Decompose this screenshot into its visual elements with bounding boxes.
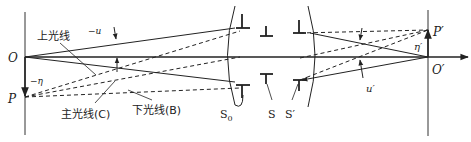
u-angle-arrow — [114, 27, 116, 39]
diagram-canvas: O P −η −u 上光线 主光线(C) 下光线(B) S0 S S′ P′ η… — [0, 0, 471, 142]
lower-ray-leader — [128, 90, 152, 100]
marginal-ray-lower-image — [302, 57, 428, 80]
s-prime-leader — [292, 84, 298, 100]
chief-ray-leader — [95, 81, 115, 103]
marginal-ray-lower-object — [25, 57, 235, 82]
label-S: S — [268, 108, 276, 121]
label-eta-prime: η′ — [414, 41, 423, 52]
label-O: O — [8, 51, 18, 65]
label-P: P — [7, 92, 17, 106]
label-P-prime: P′ — [432, 25, 444, 39]
s-leader — [267, 84, 272, 100]
exit-pupil-stop-s-prime — [293, 20, 306, 91]
label-chief-ray: 主光线(C) — [61, 107, 110, 121]
label-u-prime: u′ — [366, 83, 375, 94]
aperture-stop-s0 — [236, 14, 250, 98]
front-lens-arc — [228, 6, 244, 106]
chief-ray-image — [300, 30, 428, 58]
label-S-prime: S′ — [285, 108, 296, 121]
chief-ray-object — [25, 57, 240, 97]
label-S0-base: S — [220, 108, 228, 121]
label-upper-ray: 上光线 — [37, 29, 70, 43]
entrance-pupil-stop-s — [260, 26, 273, 84]
label-u: −u — [88, 26, 102, 36]
label-lower-ray: 下光线(B) — [132, 103, 181, 117]
upper-ray-image — [300, 30, 428, 33]
optical-diagram: O P −η −u 上光线 主光线(C) 下光线(B) S0 S S′ P′ η… — [0, 0, 471, 142]
label-O-prime: O′ — [432, 63, 445, 77]
label-eta: −η — [30, 76, 44, 86]
lower-ray-image — [300, 30, 428, 80]
u-prime-arrow-top — [360, 28, 362, 40]
label-S0-sub: 0 — [228, 114, 233, 123]
lower-ray-object — [25, 88, 240, 97]
label-S0: S0 — [220, 108, 233, 123]
